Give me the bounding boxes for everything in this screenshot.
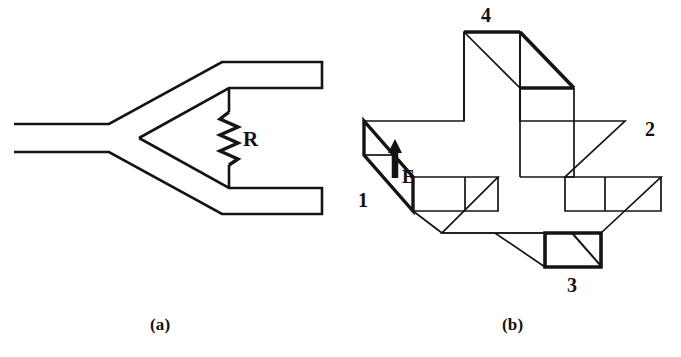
- excitation-label: E: [402, 166, 415, 187]
- face-3-front: [545, 233, 601, 267]
- base-slab-thin-edges: [364, 32, 661, 267]
- panel-b-caption: (b): [502, 315, 523, 335]
- panel-b-diagram: E: [340, 0, 681, 357]
- face-label-1: 1: [358, 189, 368, 211]
- face-label-3: 3: [567, 274, 577, 296]
- figure-root: R: [0, 0, 681, 357]
- face-3-diagonal: [572, 233, 601, 266]
- face-label-4: 4: [481, 4, 491, 26]
- resistor-label: R: [243, 127, 259, 151]
- face-4-top-edge: [464, 32, 574, 88]
- y-junction-outline: [14, 62, 322, 214]
- excitation-arrow-icon: [388, 139, 402, 178]
- face-label-2: 2: [645, 118, 655, 140]
- resistor-zigzag-icon: [220, 112, 238, 165]
- panel-a-caption: (a): [150, 315, 170, 335]
- panel-a-diagram: R: [0, 0, 340, 357]
- base-slab-bottom-left-edge: [442, 233, 545, 267]
- upright-fin-outline: [464, 32, 574, 177]
